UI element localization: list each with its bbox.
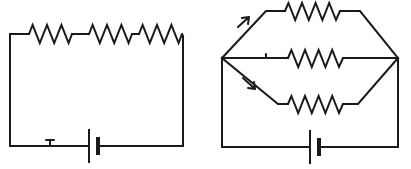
resistor-R2: [89, 25, 132, 43]
current-arrow-I2: [238, 17, 249, 27]
current-arrow-I3: [261, 54, 272, 58]
parallel-branch-bottom-right-lead: [343, 58, 398, 104]
series-circuit: [10, 25, 183, 163]
circuit-diagram-figure: [0, 0, 411, 169]
parallel-circuit: [222, 3, 398, 164]
resistor-R1: [29, 25, 72, 43]
resistor-R3: [139, 25, 182, 43]
parallel-branch-bottom-left-lead: [222, 58, 288, 104]
parallel-branch-top-left-lead: [222, 11, 285, 58]
resistor-R5: [288, 50, 343, 67]
circuit-diagram-canvas: [0, 0, 411, 169]
resistor-R6: [288, 96, 343, 113]
parallel-branch-top-right-lead: [340, 11, 398, 58]
resistor-R4: [285, 3, 340, 20]
